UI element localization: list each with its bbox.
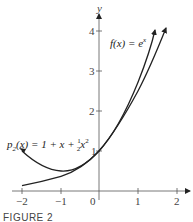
figure-caption: FIGURE 2 — [3, 212, 53, 222]
taylor-label: p2(x) = 1 + x + 12x2 — [6, 137, 89, 153]
exp-label: f(x) = ex — [110, 36, 147, 50]
y-axis-label: y — [96, 2, 102, 14]
y-tick-label: 3 — [89, 65, 95, 77]
y-tick-label: 2 — [89, 105, 95, 117]
x-tick-label: −1 — [55, 195, 67, 207]
x-tick-label: 2 — [174, 195, 180, 207]
x-tick-label: 1 — [135, 195, 141, 207]
x-tick-label: 0 — [90, 195, 96, 207]
y-tick-label: 4 — [89, 25, 95, 37]
x-tick-label: −2 — [16, 195, 28, 207]
figure-plot: y −2 −1 0 1 2 1 2 3 4 f(x) = ex p2(x) = … — [0, 0, 193, 222]
